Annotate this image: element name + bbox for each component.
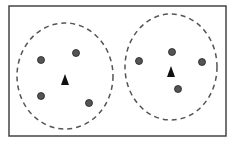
- centroid-triangle-icon: [167, 66, 175, 77]
- data-point-icon: [38, 93, 45, 100]
- data-point-icon: [86, 100, 93, 107]
- data-point-icon: [73, 50, 80, 57]
- data-point-icon: [175, 86, 182, 93]
- data-point-icon: [199, 59, 206, 66]
- cluster-diagram: [0, 0, 231, 144]
- cluster-1: [17, 23, 113, 129]
- data-point-icon: [38, 57, 45, 64]
- data-point-icon: [136, 58, 143, 65]
- clusters-group: [17, 14, 217, 129]
- diagram-frame: [9, 6, 226, 136]
- cluster-2: [125, 14, 217, 120]
- centroid-triangle-icon: [61, 74, 69, 85]
- data-point-icon: [169, 49, 176, 56]
